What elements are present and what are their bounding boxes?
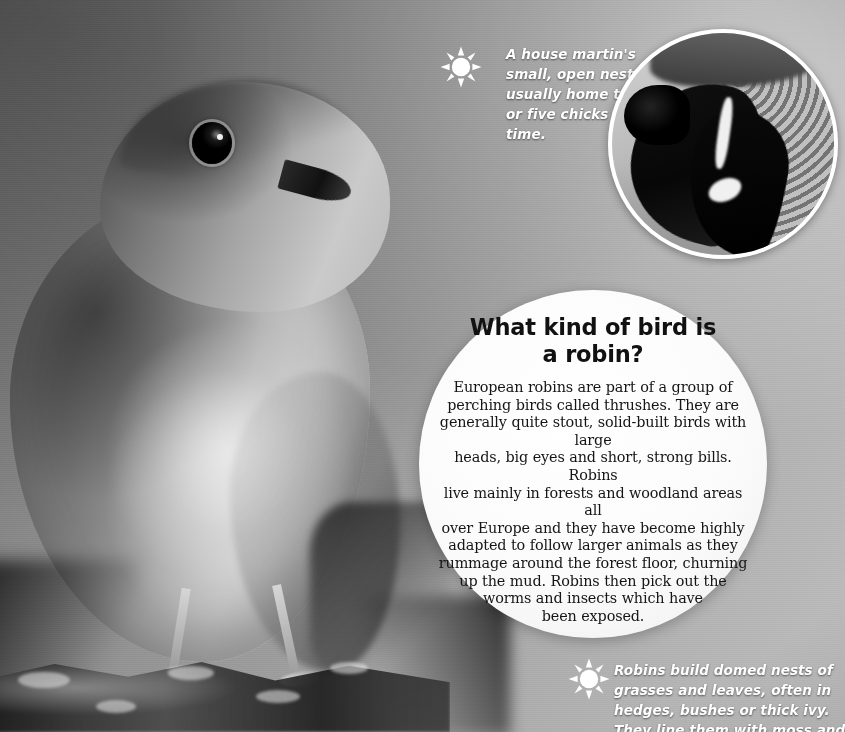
body-line: heads, big eyes and short, strong bills.…	[437, 449, 749, 484]
twig	[330, 662, 368, 674]
info-circle-title: What kind of bird is a robin?	[463, 314, 723, 368]
body-line: European robins are part of a group of	[437, 379, 749, 397]
twig	[96, 700, 136, 713]
body-line: live mainly in forests and woodland area…	[437, 485, 749, 520]
sun-icon	[568, 658, 610, 700]
martin-head	[624, 85, 690, 145]
body-line: been exposed.	[437, 608, 749, 626]
twig	[168, 666, 214, 680]
body-line: adapted to follow larger animals as they	[437, 537, 749, 555]
body-line: up the mud. Robins then pick out the	[437, 573, 749, 591]
house-martin-inset-photo	[608, 29, 838, 259]
body-line: generally quite stout, solid-built birds…	[437, 414, 749, 449]
body-line: perching birds called thrushes. They are	[437, 397, 749, 415]
info-circle: What kind of bird is a robin? European r…	[419, 290, 767, 638]
robin-eye	[192, 122, 232, 164]
twig	[18, 672, 70, 688]
info-circle-body: European robins are part of a group of p…	[437, 379, 749, 625]
body-line: worms and insects which have	[437, 590, 749, 608]
twig	[256, 690, 300, 703]
robin-crown	[120, 80, 370, 176]
info-title-line-1: What kind of	[470, 314, 630, 340]
book-page: A house martin's small, open nest is usu…	[0, 0, 845, 732]
robin-nest-caption: Robins build domed nests of grasses and …	[614, 660, 845, 732]
body-line: over Europe and they have become highly	[437, 520, 749, 538]
sun-icon	[440, 46, 482, 88]
body-line: rummage around the forest floor, churnin…	[437, 555, 749, 573]
